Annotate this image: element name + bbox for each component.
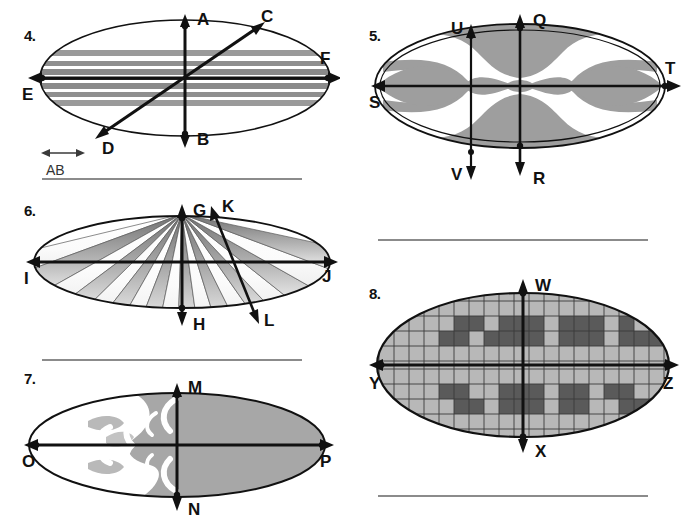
fig7-label-p: P <box>320 452 331 471</box>
fig6-label-j: J <box>322 267 331 286</box>
fig4-label-c: C <box>261 7 273 26</box>
fig5-label-r: R <box>533 169 545 188</box>
fig8-label-y: Y <box>369 374 381 393</box>
fig4-label-d: D <box>102 139 114 158</box>
rule-bottom-right <box>378 495 648 497</box>
fig5-label-s: S <box>369 93 380 112</box>
figure-7-diagram: M N O P <box>10 365 340 525</box>
worksheet-page: 4. <box>0 0 687 528</box>
rule-right-upper <box>378 239 648 241</box>
fig7-label-n: N <box>188 500 200 519</box>
fig4-label-a: A <box>197 10 209 29</box>
figure-5-diagram: Q R U V S T <box>355 0 685 190</box>
fig4-label-b: B <box>197 130 209 149</box>
fig5-label-u: U <box>451 19 463 38</box>
fig8-label-z: Z <box>663 374 673 393</box>
fig4-label-e: E <box>22 85 33 104</box>
rule-under-fig4 <box>42 178 302 180</box>
fig6-label-h: H <box>193 315 205 334</box>
figure-6-diagram: G H I J K L <box>10 190 340 340</box>
figure-4-diagram: A B E F C D AB <box>10 0 340 185</box>
rule-under-fig6 <box>42 359 302 361</box>
figure-8-diagram: W X Y Z <box>355 265 685 495</box>
fig5-label-t: T <box>665 59 676 78</box>
fig8-label-x: X <box>535 442 547 461</box>
fig7-label-o: O <box>22 452 35 471</box>
fig6-label-g: G <box>193 201 206 220</box>
fig4-scale-bar <box>41 149 85 157</box>
fig4-label-f: F <box>320 49 330 68</box>
fig6-label-k: K <box>222 197 235 216</box>
fig7-label-m: M <box>188 378 202 397</box>
fig6-label-i: I <box>24 269 29 288</box>
fig8-label-w: W <box>535 276 552 295</box>
fig5-label-v: V <box>451 165 463 184</box>
fig6-label-l: L <box>264 311 274 330</box>
fig5-label-q: Q <box>533 11 546 30</box>
fig4-scale-label: AB <box>46 162 65 178</box>
